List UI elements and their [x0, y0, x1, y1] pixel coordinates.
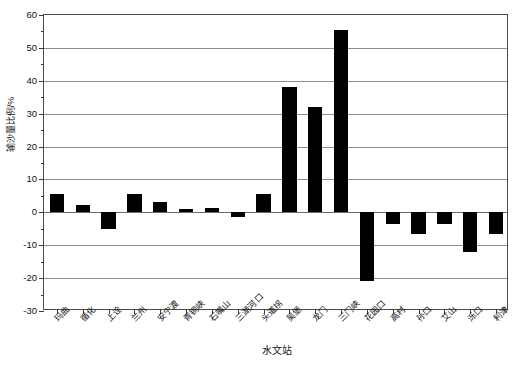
bar — [231, 212, 245, 217]
gridline — [44, 278, 507, 279]
y-axis-tick-label: -30 — [23, 306, 37, 316]
y-axis-minor-tick — [41, 229, 44, 230]
bar — [179, 209, 193, 212]
bar — [256, 194, 270, 212]
plot-area: -30-20-100102030405060 — [43, 14, 508, 310]
gridline — [44, 245, 507, 246]
y-axis-tick-label: 30 — [26, 109, 37, 119]
y-axis-minor-tick — [41, 97, 44, 98]
bar — [308, 107, 322, 212]
y-axis-minor-tick — [41, 31, 44, 32]
gridline — [44, 147, 507, 148]
y-axis-title: 输沙量比例/% — [4, 85, 17, 165]
y-axis-tick — [39, 15, 44, 16]
y-axis-tick-label: 0 — [32, 208, 37, 218]
bar — [334, 30, 348, 213]
y-axis-minor-tick — [41, 130, 44, 131]
y-axis-tick — [39, 48, 44, 49]
bar — [463, 212, 477, 251]
y-axis-tick — [39, 278, 44, 279]
y-axis-minor-tick — [41, 163, 44, 164]
y-axis-tick — [39, 245, 44, 246]
y-axis-tick — [39, 81, 44, 82]
bar — [411, 212, 425, 233]
y-axis-tick-label: 10 — [26, 175, 37, 185]
bar — [127, 194, 141, 212]
y-axis-tick-label: 60 — [26, 10, 37, 20]
y-axis-minor-tick — [41, 262, 44, 263]
bar — [50, 194, 64, 212]
gridline — [44, 81, 507, 82]
y-axis-tick-label: 20 — [26, 142, 37, 152]
gridline — [44, 179, 507, 180]
gridline — [44, 48, 507, 49]
bar — [76, 205, 90, 213]
bar — [386, 212, 400, 224]
y-axis-tick-label: 50 — [26, 43, 37, 53]
x-axis-title: 水文站 — [0, 342, 513, 357]
gridline — [44, 114, 507, 115]
y-axis-tick — [39, 212, 44, 213]
y-axis-minor-tick — [41, 64, 44, 65]
bar — [205, 208, 219, 212]
y-axis-minor-tick — [41, 295, 44, 296]
bar — [437, 212, 451, 224]
bar — [101, 212, 115, 228]
y-axis-tick — [39, 179, 44, 180]
bar — [489, 212, 503, 233]
bar — [282, 87, 296, 212]
chart-figure: 输沙量比例/% -30-20-100102030405060 水文站 玛曲循化上… — [0, 0, 513, 369]
y-axis-tick — [39, 114, 44, 115]
y-axis-tick-label: 40 — [26, 76, 37, 86]
bar — [153, 202, 167, 212]
bar — [360, 212, 374, 281]
y-axis-tick — [39, 311, 44, 312]
y-axis-minor-tick — [41, 196, 44, 197]
y-axis-tick — [39, 147, 44, 148]
y-axis-tick-label: -20 — [23, 273, 37, 283]
y-axis-tick-label: -10 — [23, 240, 37, 250]
